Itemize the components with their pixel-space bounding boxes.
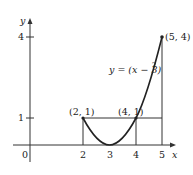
- y-tick-label-4: 4: [18, 31, 24, 42]
- x-tick-label-3: 3: [107, 149, 113, 160]
- point-5-4: [160, 35, 164, 39]
- x-tick-label-4: 4: [133, 149, 139, 160]
- x-axis-label: x: [172, 149, 178, 160]
- y-axis-arrow-icon: [28, 18, 33, 24]
- parabola-curve: [83, 37, 162, 145]
- figure: y 4 1 0 2 3 4 5 x (2, 1) (4, 1) (5, 4) y…: [0, 0, 193, 175]
- y-tick-label-1: 1: [18, 112, 24, 123]
- equation-exponent: 2: [152, 61, 156, 69]
- point-label-5-4: (5, 4): [165, 31, 191, 42]
- point-label-4-1: (4, 1): [118, 106, 144, 117]
- origin-label: 0: [22, 149, 28, 160]
- x-tick-label-5: 5: [159, 149, 165, 160]
- x-axis-arrow-icon: [170, 143, 176, 148]
- x-tick-label-2: 2: [80, 149, 86, 160]
- point-label-2-1: (2, 1): [69, 106, 95, 117]
- y-axis-label: y: [19, 15, 26, 26]
